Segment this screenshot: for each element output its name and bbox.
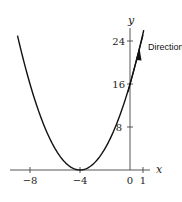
x-tick-label: −8 — [23, 175, 38, 186]
chart: −8 −4 0 1 8 16 24 x y Direction — [0, 0, 182, 202]
x-tick-label: 1 — [140, 175, 146, 186]
y-axis-label: y — [127, 14, 135, 27]
parabola-curve — [18, 30, 144, 170]
y-tick-label: 16 — [112, 79, 125, 90]
direction-label: Direction — [148, 42, 182, 52]
x-axis-label: x — [156, 163, 163, 176]
x-tick-label: 0 — [127, 175, 133, 186]
y-tick-label: 24 — [112, 36, 125, 47]
x-tick-label: −4 — [73, 175, 88, 186]
